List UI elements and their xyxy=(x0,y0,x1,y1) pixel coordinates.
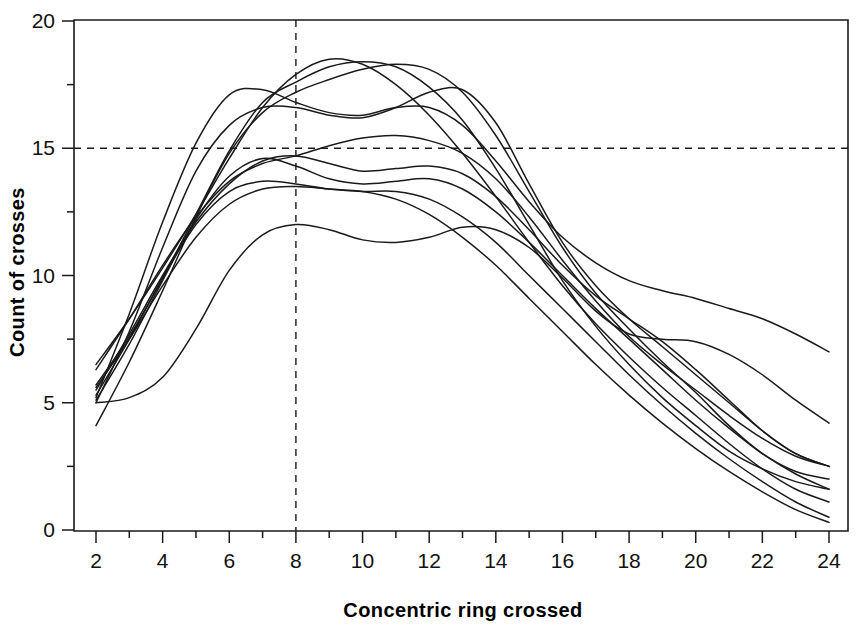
data-curve-subject-8 xyxy=(96,158,829,489)
y-axis-tick-labels: 05101520 xyxy=(32,9,55,541)
reference-lines-group xyxy=(74,20,848,531)
x-tick-label-2: 2 xyxy=(90,549,102,572)
x-tick-label-8: 8 xyxy=(290,549,302,572)
x-axis-tick-labels: 24681012141618202224 xyxy=(90,549,841,572)
x-tick-label-16: 16 xyxy=(551,549,574,572)
plot-frame xyxy=(74,20,848,531)
y-tick-label-0: 0 xyxy=(43,518,55,541)
data-curve-subject-4 xyxy=(96,88,829,397)
x-tick-label-20: 20 xyxy=(684,549,707,572)
x-tick-label-14: 14 xyxy=(484,549,508,572)
data-curve-subject-11 xyxy=(96,186,829,522)
y-tick-label-10: 10 xyxy=(32,264,55,287)
x-axis-title: Concentric ring crossed xyxy=(343,599,582,621)
x-tick-label-4: 4 xyxy=(157,549,169,572)
chart-figure: 24681012141618202224 05101520 Concentric… xyxy=(0,0,863,633)
data-curve-subject-9 xyxy=(96,224,829,423)
x-tick-label-6: 6 xyxy=(223,549,235,572)
y-tick-label-15: 15 xyxy=(32,136,55,159)
chart-canvas: 24681012141618202224 05101520 Concentric… xyxy=(0,0,863,633)
y-axis-major-ticks xyxy=(62,21,74,530)
plot-frame-border xyxy=(74,20,848,531)
y-axis-title: Count of crosses xyxy=(6,187,28,357)
data-curves-group xyxy=(96,59,829,523)
x-tick-label-24: 24 xyxy=(817,549,841,572)
x-tick-label-12: 12 xyxy=(418,549,441,572)
x-tick-label-18: 18 xyxy=(617,549,640,572)
x-tick-label-22: 22 xyxy=(751,549,774,572)
y-tick-label-20: 20 xyxy=(32,9,55,32)
x-tick-label-10: 10 xyxy=(351,549,374,572)
data-curve-subject-5 xyxy=(96,87,829,466)
y-tick-label-5: 5 xyxy=(43,391,55,414)
